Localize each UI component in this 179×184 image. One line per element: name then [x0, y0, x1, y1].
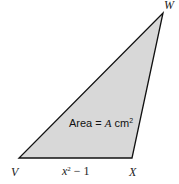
- area-label: Area = A cm2: [69, 117, 133, 129]
- triangle-diagram: V X W Area = A cm2 x2 − 1: [0, 0, 179, 184]
- vertex-label-v: V: [11, 165, 20, 179]
- base-length-label: x2 − 1: [61, 164, 90, 178]
- vertex-label-x: X: [128, 165, 137, 179]
- triangle-vwx: [19, 13, 163, 158]
- vertex-label-w: W: [164, 0, 175, 12]
